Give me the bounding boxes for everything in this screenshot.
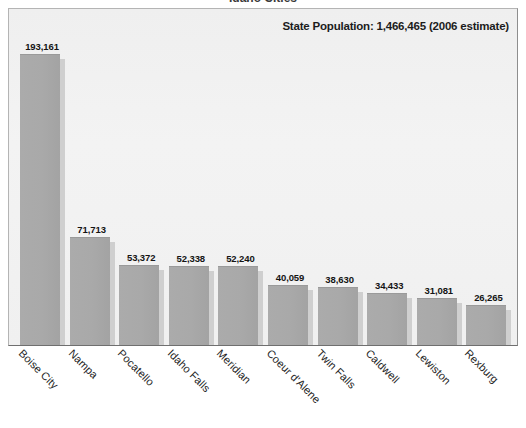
bar-group: 193,161 [20, 54, 66, 345]
bar-value-label: 52,240 [212, 253, 268, 264]
bar-group: 52,338 [169, 266, 215, 345]
bar-value-label: 193,161 [14, 41, 70, 52]
bar-value-label: 34,433 [361, 280, 417, 291]
bar-group: 31,081 [417, 298, 463, 345]
category-label-twin-falls: Twin Falls [314, 347, 358, 391]
bar[interactable]: 40,059 [268, 285, 308, 345]
cropped-chart-title-text: Idaho Cities [0, 0, 526, 5]
bar[interactable]: 26,265 [466, 305, 506, 345]
bar-value-label: 52,338 [163, 253, 219, 264]
bar[interactable]: 52,240 [218, 266, 258, 345]
bar[interactable]: 31,081 [417, 298, 457, 345]
bar[interactable]: 34,433 [367, 293, 407, 345]
category-label-rexburg: Rexburg [463, 347, 501, 385]
bar[interactable]: 53,372 [119, 265, 159, 345]
bar[interactable]: 193,161 [20, 54, 60, 345]
bar-group: 38,630 [318, 287, 364, 345]
cropped-chart-title: Idaho Cities [0, 0, 526, 7]
category-label-caldwell: Caldwell [364, 347, 402, 385]
category-label-lewiston: Lewiston [413, 347, 453, 387]
bar-group: 52,240 [218, 266, 264, 345]
bar-chart: State Population: 1,466,465 (2006 estima… [8, 8, 518, 346]
bar[interactable]: 71,713 [70, 237, 110, 345]
bars-container: 193,16171,71353,37252,33852,24040,05938,… [9, 9, 517, 345]
category-label-boise-city: Boise City [17, 347, 61, 391]
bar-group: 71,713 [70, 237, 116, 345]
bar-value-label: 40,059 [262, 272, 318, 283]
bar-group: 40,059 [268, 285, 314, 345]
category-label-nampa: Nampa [66, 347, 100, 381]
bar[interactable]: 52,338 [169, 266, 209, 345]
bar-value-label: 38,630 [312, 274, 368, 285]
category-label-meridian: Meridian [215, 347, 254, 386]
bar-value-label: 31,081 [411, 285, 467, 296]
bar-group: 26,265 [466, 305, 512, 345]
category-label-pocatello: Pocatello [116, 347, 157, 388]
category-label-idaho-falls: Idaho Falls [165, 347, 212, 394]
bar-group: 53,372 [119, 265, 165, 345]
bar[interactable]: 38,630 [318, 287, 358, 345]
bar-value-label: 71,713 [64, 224, 120, 235]
category-axis-labels: Boise CityNampaPocatelloIdaho FallsMerid… [8, 347, 518, 428]
bar-group: 34,433 [367, 293, 413, 345]
bar-value-label: 26,265 [460, 292, 516, 303]
bar-value-label: 53,372 [113, 252, 169, 263]
